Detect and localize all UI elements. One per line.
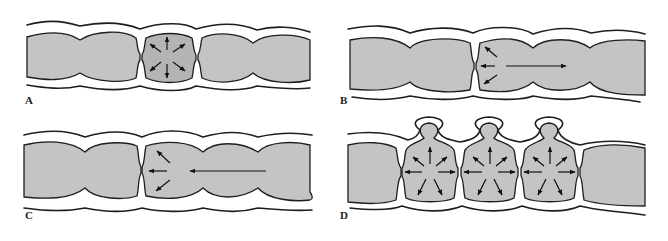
panel-label-c: C [25,209,33,221]
panel-c: C [24,131,312,221]
outer-wall-top [24,131,312,137]
outer-wall-bottom [350,206,645,215]
outer-wall-top [348,26,645,34]
lumen-right [476,39,645,95]
lumen-left [24,142,141,199]
panel-label-a: A [25,94,33,106]
outer-wall-bottom [352,96,640,102]
panel-label-d: D [340,209,348,221]
panel-label-b: B [340,94,348,106]
lumen-contracting-segment [142,34,196,83]
lumen-right [580,145,645,206]
panel-a: A [25,21,310,106]
panel-d: D [340,117,645,221]
outer-wall-top [27,21,310,32]
panel-b: B [340,26,645,106]
lumen-left [350,38,474,92]
outer-wall-bottom [27,85,310,91]
outer-wall-bottom [24,208,312,211]
lumen-left [348,143,401,204]
colon-segmentation-diagram: A B C [0,0,668,241]
lumen-left [27,32,140,81]
lumen-right [198,34,310,82]
